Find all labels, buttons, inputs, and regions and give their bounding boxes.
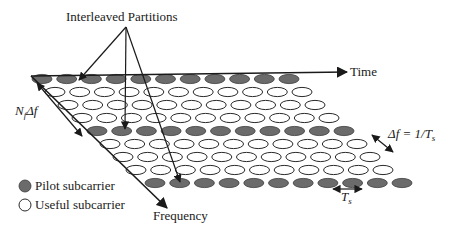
pilot-subcarrier (285, 126, 305, 135)
useful-subcarrier (121, 113, 141, 122)
useful-subcarrier (196, 113, 216, 122)
useful-subcarrier (83, 100, 103, 109)
pilot-subcarrier (235, 126, 255, 135)
subcarrier-grid (32, 74, 412, 187)
useful-subcarrier (360, 152, 380, 161)
pilot-subcarrier (293, 178, 313, 187)
pilot-subcarrier (260, 126, 280, 135)
useful-subcarrier (100, 139, 120, 148)
useful-subcarrier (322, 139, 342, 148)
pilot-subcarrier (254, 74, 274, 83)
pilot-subcarrier (211, 126, 231, 135)
pilot-subcarrier (131, 74, 151, 83)
legend: Pilot subcarrier Useful subcarrier (19, 178, 126, 212)
useful-subcarrier (187, 152, 207, 161)
useful-subcarrier (261, 152, 281, 161)
pilot-subcarrier (334, 126, 354, 135)
pilot-subcarrier (343, 178, 363, 187)
useful-subcarrier (206, 100, 226, 109)
pilot-subcarrier (186, 126, 206, 135)
subcarrier-spacing-label: Δf = 1/Ts (387, 126, 436, 143)
useful-subcarrier (212, 152, 232, 161)
useful-subcarrier (347, 139, 367, 148)
useful-subcarrier (220, 113, 240, 122)
useful-subcarrier (250, 165, 270, 174)
pilot-subcarrier (279, 74, 299, 83)
useful-subcarrier (169, 87, 189, 96)
useful-legend-icon (19, 199, 31, 211)
pilot-subcarrier (180, 74, 200, 83)
useful-subcarrier (335, 152, 355, 161)
useful-subcarrier (274, 165, 294, 174)
useful-subcarrier (294, 113, 314, 122)
useful-subcarrier (256, 100, 276, 109)
useful-subcarrier (292, 87, 312, 96)
useful-subcarrier (270, 113, 290, 122)
useful-subcarrier (151, 165, 171, 174)
pilot-subcarrier (145, 178, 165, 187)
pilot-subcarrier (112, 126, 132, 135)
pilot-subcarrier (194, 178, 214, 187)
pilot-subcarrier (219, 178, 239, 187)
pilot-subcarrier (269, 178, 289, 187)
useful-subcarrier (224, 139, 244, 148)
useful-subcarrier (138, 152, 158, 161)
useful-subcarrier (319, 113, 339, 122)
useful-subcarrier (286, 152, 306, 161)
useful-subcarrier (182, 100, 202, 109)
useful-legend-label: Useful subcarrier (35, 197, 126, 212)
useful-subcarrier (199, 139, 219, 148)
useful-subcarrier (107, 100, 127, 109)
useful-subcarrier (237, 152, 257, 161)
useful-subcarrier (311, 152, 331, 161)
useful-subcarrier (299, 165, 319, 174)
pilot-subcarrier (230, 74, 250, 83)
useful-subcarrier (132, 100, 152, 109)
pilot-legend-label: Pilot subcarrier (35, 178, 115, 193)
useful-subcarrier (126, 165, 146, 174)
useful-subcarrier (97, 113, 117, 122)
symbol-period-label: Ts (341, 189, 352, 206)
pilot-subcarrier (205, 74, 225, 83)
pilot-subcarrier (136, 126, 156, 135)
useful-subcarrier (193, 87, 213, 96)
useful-subcarrier (324, 165, 344, 174)
useful-subcarrier (248, 139, 268, 148)
bandwidth-label: NfΔf (14, 103, 40, 120)
useful-subcarrier (218, 87, 238, 96)
useful-subcarrier (94, 87, 114, 96)
useful-subcarrier (305, 100, 325, 109)
pilot-subcarrier (244, 178, 264, 187)
interleaved-partitions-title: Interleaved Partitions (66, 9, 178, 24)
pilot-subcarrier (156, 74, 176, 83)
useful-subcarrier (157, 100, 177, 109)
useful-subcarrier (119, 87, 139, 96)
useful-subcarrier (280, 100, 300, 109)
time-axis-label: Time (350, 64, 377, 79)
useful-subcarrier (113, 152, 133, 161)
useful-subcarrier (200, 165, 220, 174)
useful-subcarrier (273, 139, 293, 148)
pilot-legend-icon (19, 180, 31, 192)
useful-subcarrier (245, 113, 265, 122)
useful-subcarrier (144, 87, 164, 96)
useful-subcarrier (171, 113, 191, 122)
useful-subcarrier (348, 165, 368, 174)
useful-subcarrier (373, 165, 393, 174)
pilot-subcarrier (161, 126, 181, 135)
useful-subcarrier (231, 100, 251, 109)
useful-subcarrier (267, 87, 287, 96)
useful-subcarrier (70, 87, 90, 96)
pilot-subcarrier (392, 178, 412, 187)
pilot-subcarrier (367, 178, 387, 187)
useful-subcarrier (243, 87, 263, 96)
partition-arrow-1 (79, 27, 126, 80)
useful-subcarrier (174, 139, 194, 148)
useful-subcarrier (175, 165, 195, 174)
useful-subcarrier (225, 165, 245, 174)
pilot-subcarrier (309, 126, 329, 135)
frequency-axis-label: Frequency (153, 208, 208, 223)
useful-subcarrier (298, 139, 318, 148)
useful-subcarrier (125, 139, 145, 148)
pilot-subcarrier (318, 178, 338, 187)
